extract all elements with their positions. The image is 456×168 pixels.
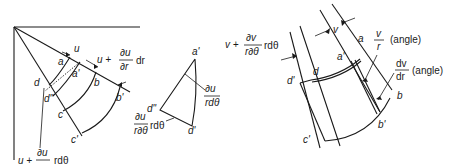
label-r-under: r — [377, 41, 381, 52]
leader-dv-dr — [378, 73, 394, 100]
label-angle-2: (angle) — [412, 65, 443, 76]
leader-left — [166, 118, 174, 121]
label-rdtheta-tail: rdθ — [264, 40, 279, 51]
label-dv2: dv — [396, 58, 407, 69]
label-mid-rdtheta: rdθ — [205, 97, 220, 108]
label-left-rdtheta: r∂θ — [134, 125, 148, 136]
strain-displacement-diagram: u u + ∂u ∂r dr a a' b b' c c' d d" u + ∂… — [0, 0, 456, 168]
arc-bc — [63, 72, 96, 111]
label-dv: ∂v — [246, 32, 257, 43]
panel-right: v a a' b b' c' d d' v + ∂v r∂θ rdθ v r (… — [225, 4, 443, 148]
label-u: u — [74, 43, 80, 54]
point-d-dprime: d" — [44, 93, 54, 104]
label-dr-tail: dr — [136, 55, 146, 66]
point-b-prime: b' — [116, 92, 125, 103]
label-u-plus: u + — [97, 54, 111, 65]
point-a-right: a — [358, 33, 364, 44]
label-v-over: v — [376, 28, 382, 39]
label-rdtheta: r∂θ — [245, 46, 259, 57]
point-b: b — [94, 77, 100, 88]
point-b-right: b — [397, 90, 403, 101]
point-c: c — [58, 109, 63, 120]
panel-left: u u + ∂u ∂r dr a a' b b' c c' d d" u + ∂… — [14, 27, 146, 166]
point-a-prime: a' — [72, 68, 81, 79]
panel-middle: a' d" d' ∂u rdθ ∂u r∂θ rdθ — [134, 46, 220, 136]
point-b-prime-right: b' — [378, 119, 387, 130]
point-c-prime: c' — [71, 134, 79, 145]
label-v: v — [333, 24, 339, 35]
label-mid-du: ∂u — [205, 83, 216, 94]
point-d-prime-right: d' — [287, 75, 296, 86]
triangle-element — [160, 59, 196, 126]
arc-bc-prime — [82, 87, 120, 133]
label-v-plus: v + — [225, 39, 239, 50]
point-a: a — [58, 56, 64, 67]
point-d-right: d — [313, 66, 319, 77]
point-d-prime-mid: d' — [188, 125, 197, 136]
point-d-dprime-mid: d" — [147, 103, 157, 114]
radial-line-upper — [14, 27, 130, 92]
radial-line-lower — [14, 27, 82, 136]
label-dr2: dr — [396, 71, 406, 82]
point-d: d — [34, 77, 40, 88]
leader-du — [185, 74, 205, 90]
point-a-prime-right: a' — [337, 51, 346, 62]
label-left-du: ∂u — [135, 111, 146, 122]
label-du: ∂u — [120, 47, 131, 58]
label-bottom-du: ∂u — [37, 147, 48, 158]
label-dr: ∂r — [120, 61, 129, 72]
label-left-tail: rdθ — [150, 120, 165, 131]
point-a-prime-mid: a' — [192, 46, 201, 57]
label-bottom-tail: rdθ — [54, 155, 69, 166]
point-c-prime-right: c' — [303, 134, 311, 145]
label-bottom-u-plus: u + — [18, 155, 32, 166]
label-angle-1: (angle) — [390, 34, 421, 45]
